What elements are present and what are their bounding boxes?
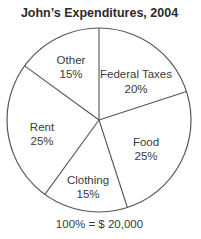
pie-chart: Federal Taxes 20% Food 25% Clothing 15% … — [0, 0, 201, 239]
slice-percent: 25% — [134, 150, 157, 162]
slice-percent: 15% — [59, 68, 82, 80]
slice-label: Other — [57, 54, 86, 66]
slice-label: Rent — [30, 121, 55, 133]
slice-label: Food — [133, 136, 159, 148]
slice-percent: 20% — [124, 83, 147, 95]
slice-label: Clothing — [67, 174, 109, 186]
slice-percent: 15% — [76, 188, 99, 200]
slice-label: Federal Taxes — [100, 68, 172, 80]
slice-percent: 25% — [30, 135, 53, 147]
chart-caption: 100% = $ 20,000 — [0, 218, 199, 230]
